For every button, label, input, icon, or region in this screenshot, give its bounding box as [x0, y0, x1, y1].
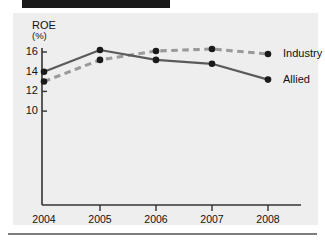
- y-tick-label: 12: [18, 84, 38, 96]
- bottom-divider-rule: [8, 233, 317, 235]
- y-tick-label: 10: [18, 104, 38, 116]
- x-tick-label: 2005: [80, 213, 120, 225]
- data-point-marker-allied: [41, 68, 48, 75]
- legend-label-industry: Industry: [283, 47, 322, 59]
- y-tick-label: 16: [18, 45, 38, 57]
- legend-connector-layer: [268, 54, 278, 80]
- y-tick-label: 14: [18, 65, 38, 77]
- series-line-allied: [44, 50, 268, 80]
- data-point-marker-industry: [265, 51, 272, 58]
- x-tick-label: 2008: [248, 213, 288, 225]
- y-axis-title: ROE (%): [32, 19, 56, 42]
- legend-label-allied: Allied: [283, 73, 310, 85]
- data-point-marker-allied: [153, 57, 160, 64]
- figure-root: ROE (%) 16141210 20042005200620072008 In…: [0, 0, 325, 242]
- data-point-marker-allied: [265, 76, 272, 83]
- x-tick-label: 2007: [192, 213, 232, 225]
- x-tick-marks: [100, 205, 268, 211]
- data-point-marker-industry: [153, 48, 160, 55]
- marker-layer: [41, 46, 272, 85]
- y-axis-unit-text: (%): [32, 31, 56, 42]
- data-point-marker-allied: [209, 61, 216, 68]
- x-tick-label: 2006: [136, 213, 176, 225]
- data-point-marker-industry: [41, 78, 48, 85]
- data-point-marker-allied: [97, 47, 104, 54]
- x-tick-label: 2004: [24, 213, 64, 225]
- data-point-marker-industry: [209, 46, 216, 53]
- data-point-marker-industry: [97, 57, 104, 64]
